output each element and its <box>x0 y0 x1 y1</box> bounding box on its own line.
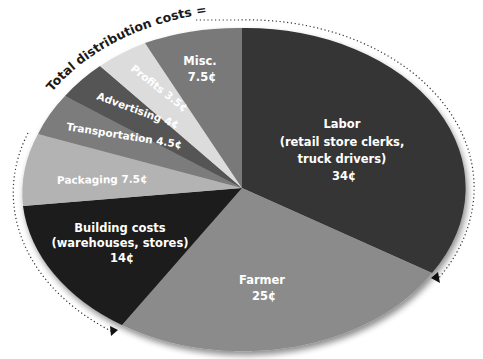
pie <box>22 28 465 351</box>
label-packaging: Packaging 7.5¢ <box>57 172 148 186</box>
arrowhead-icon <box>431 272 440 283</box>
arrowhead-icon <box>110 326 118 336</box>
pie-chart: Total distribution costs = Labor (retail… <box>0 0 483 359</box>
